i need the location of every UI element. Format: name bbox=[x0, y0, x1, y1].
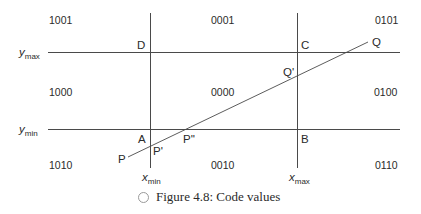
corner-b: B bbox=[301, 134, 309, 146]
figure-caption: Figure 4.8: Code values bbox=[138, 189, 280, 205]
code-middle-right: 0100 bbox=[374, 87, 397, 98]
code-middle-center: 0000 bbox=[211, 87, 234, 98]
ymax-label: ymax bbox=[19, 47, 40, 61]
point-p: P bbox=[118, 154, 126, 166]
ymin-sub: min bbox=[25, 129, 38, 138]
circle-icon bbox=[138, 192, 149, 203]
corner-a: A bbox=[138, 134, 146, 146]
point-q-prime: Q' bbox=[283, 67, 294, 79]
code-top-right: 0101 bbox=[375, 15, 398, 26]
caption-text: Figure 4.8: Code values bbox=[156, 189, 280, 205]
code-middle-left: 1000 bbox=[49, 87, 72, 98]
point-q: Q bbox=[372, 37, 381, 49]
segment-pq bbox=[128, 42, 368, 157]
ymin-label: ymin bbox=[19, 124, 38, 138]
diagram-lines bbox=[0, 0, 421, 214]
corner-c: C bbox=[301, 40, 309, 52]
point-p-prime: P' bbox=[153, 146, 163, 158]
point-p-double-prime: P'' bbox=[183, 134, 195, 146]
xmax-sub: max bbox=[295, 177, 310, 186]
clipping-diagram: 1001 0001 0101 1000 0000 0100 1010 0010 … bbox=[0, 0, 421, 214]
xmax-label: xmax bbox=[289, 172, 310, 186]
corner-d: D bbox=[137, 40, 145, 52]
xmin-label: xmin bbox=[142, 172, 161, 186]
code-top-left: 1001 bbox=[49, 15, 72, 26]
xmin-sub: min bbox=[148, 177, 161, 186]
code-bottom-center: 0010 bbox=[211, 160, 234, 171]
code-top-center: 0001 bbox=[211, 15, 234, 26]
code-bottom-left: 1010 bbox=[49, 160, 72, 171]
ymax-sub: max bbox=[25, 52, 40, 61]
code-bottom-right: 0110 bbox=[375, 160, 398, 171]
